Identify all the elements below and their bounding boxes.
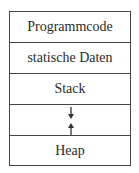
arrow-up-icon [67,123,75,135]
segment-label: Stack [54,82,85,96]
segment-programmcode: Programmcode [10,12,130,43]
segment-static-data: statische Daten [10,44,130,75]
segment-heap: Heap [10,137,130,166]
segment-stack: Stack [10,75,130,106]
segment-label: statische Daten [27,51,112,65]
memory-layout-diagram: Programmcode statische Daten Stack Heap [9,11,131,166]
arrow-down-icon [67,107,75,119]
segment-label: Heap [55,144,85,158]
segment-label: Programmcode [27,20,113,34]
segment-free-space [10,106,130,137]
